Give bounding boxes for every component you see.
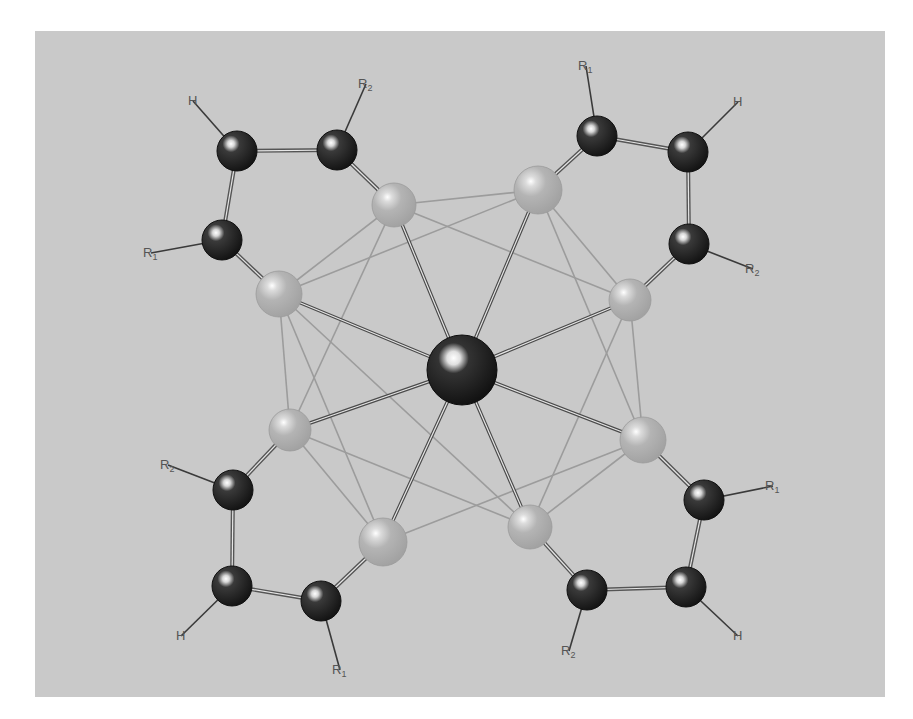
carbon-atom	[301, 581, 341, 621]
r-group-label: R1	[143, 245, 157, 262]
carbon-atom	[212, 566, 252, 606]
carbon-atom	[567, 570, 607, 610]
metal-atom	[427, 335, 497, 405]
carbon-atom	[202, 220, 242, 260]
r-group-label: R2	[561, 643, 575, 660]
carbon-atom	[666, 567, 706, 607]
carbon-atom	[669, 224, 709, 264]
donor-atom	[269, 409, 311, 451]
central-metal-atom	[427, 335, 497, 405]
donor-atom	[514, 166, 562, 214]
hydrogen-label: H	[176, 628, 185, 643]
hydrogen-label: H	[733, 94, 742, 109]
carbon-atom	[317, 130, 357, 170]
r-group-label: R1	[765, 478, 779, 495]
antiprism-edge	[290, 205, 394, 430]
donor-atom	[609, 279, 651, 321]
carbon-atom	[217, 131, 257, 171]
donor-atom	[372, 183, 416, 227]
hydrogen-label: H	[188, 93, 197, 108]
r-group-label: R2	[160, 457, 174, 474]
r-group-label: R1	[578, 58, 592, 75]
molecule-diagram: HR2R1R1HR2R2HR1R1HR2	[0, 0, 913, 719]
r-group-label: R1	[332, 662, 346, 679]
carbon-atom	[684, 480, 724, 520]
carbon-atom	[668, 132, 708, 172]
carbon-atom	[213, 470, 253, 510]
r-group-label: R2	[745, 261, 759, 278]
donor-atom	[256, 271, 302, 317]
donor-atom	[508, 505, 552, 549]
carbon-atom	[577, 116, 617, 156]
donor-atom	[359, 518, 407, 566]
r-group-label: R2	[358, 76, 372, 93]
hydrogen-label: H	[733, 628, 742, 643]
donor-atom	[620, 417, 666, 463]
